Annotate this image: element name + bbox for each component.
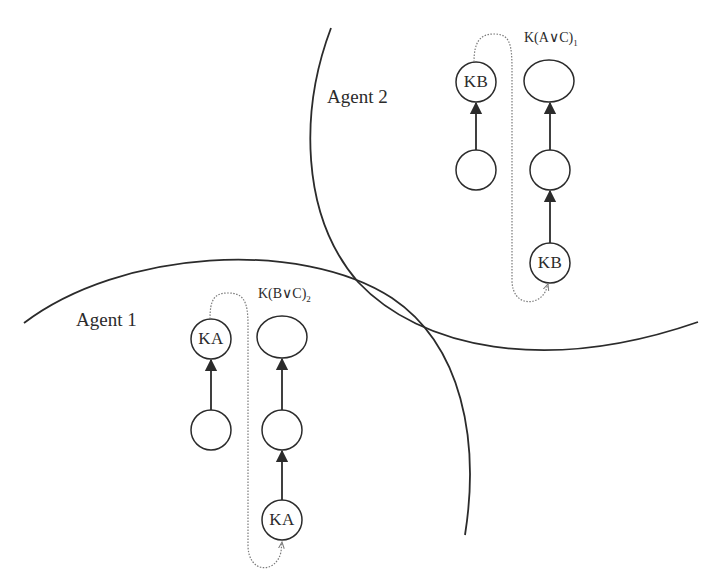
agent-2-formula-subscript: 1: [573, 38, 578, 48]
agent-1-node-right-middle: [262, 410, 302, 450]
agent-knowledge-diagram: Agent 2 Agent 1 K(A∨C)1 K(B∨C)2 KB KB KA…: [0, 0, 705, 585]
agent-2-formula-base: K(A∨C): [524, 30, 573, 45]
agent-1-node-formula: [257, 316, 307, 358]
agent-1-formula-base: K(B∨C): [258, 286, 306, 301]
agent-1-boundary: [24, 260, 470, 535]
agent-2-node-formula: [524, 60, 574, 102]
agent-2-label: Agent 2: [327, 86, 388, 108]
agent-1-node-left-bottom: [191, 410, 231, 450]
agent-2-node-left-bottom: [456, 150, 496, 190]
agent-1-formula-subscript: 2: [306, 294, 311, 304]
agent-1-node-ka-top-label: KA: [198, 329, 224, 349]
agent-2-node-kb-top-label: KB: [464, 72, 489, 92]
agent-2-node-kb-bottom-label: KB: [538, 253, 563, 273]
agent-1-formula-label: K(B∨C)2: [258, 285, 311, 304]
agent-2-boundary: [310, 28, 698, 350]
agent-2-node-right-middle: [530, 150, 570, 190]
agent-1-label: Agent 1: [76, 309, 137, 331]
agent-1-node-ka-bottom-label: KA: [269, 510, 295, 530]
agent-2-formula-label: K(A∨C)1: [524, 29, 578, 48]
